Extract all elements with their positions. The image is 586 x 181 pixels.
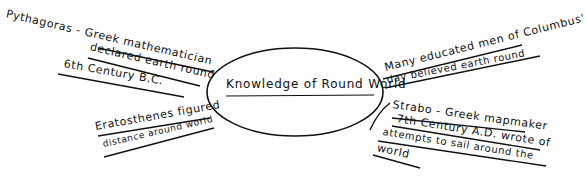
center-ellipse bbox=[207, 48, 383, 136]
center-underline bbox=[226, 95, 374, 96]
center-topic-label: Knowledge of Round World bbox=[226, 77, 407, 91]
